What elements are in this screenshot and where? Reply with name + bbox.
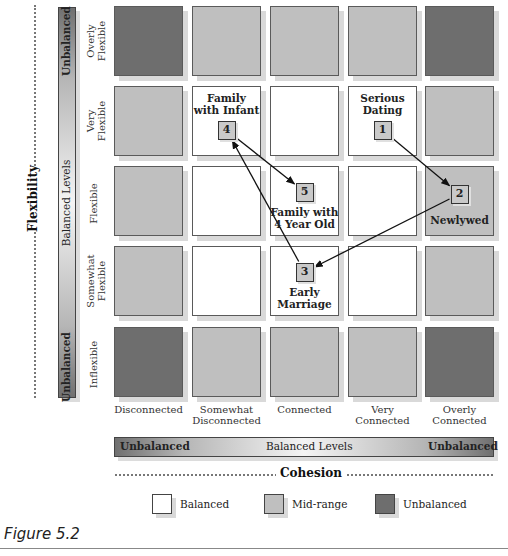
grid-cell-balanced (348, 246, 417, 316)
grid-cell-mid-range (348, 327, 417, 397)
grid-cell-mid-range (114, 166, 183, 236)
stage-marker: 1 (374, 121, 392, 140)
stage-label: Familywith Infant (192, 92, 261, 116)
grid-cell-mid-range (348, 6, 417, 76)
stage-marker: 5 (296, 183, 314, 202)
grid-cell-mid-range (114, 246, 183, 316)
grid-cell-mid-range (114, 86, 183, 156)
flexibility-level-label: Inflexible (83, 330, 110, 400)
grid-cell-unbalanced (425, 327, 494, 397)
legend-label-unbalanced: Unbalanced (403, 498, 467, 510)
figure-rule (0, 548, 508, 549)
grid-cell-mid-range (192, 6, 261, 76)
grid-cell-mid-range (270, 327, 339, 397)
legend-label-balanced: Balanced (180, 498, 229, 510)
flexibility-level-label: SomewhatFlexible (85, 246, 107, 316)
stage-label: Family with4 Year Old (270, 206, 339, 230)
grid-cell-mid-range (425, 86, 494, 156)
flexibility-level-label: OverlyFlexible (85, 6, 107, 76)
legend-label-mid-range: Mid-range (292, 498, 347, 510)
grid-cell-mid-range (192, 327, 261, 397)
flexibility-axis-title: Flexibility (26, 168, 42, 232)
grid-cell-unbalanced (114, 6, 183, 76)
stage-marker: 3 (296, 263, 314, 282)
cohesion-axis-title: Cohesion (276, 466, 346, 480)
stage-label: Newlywed (425, 214, 494, 226)
legend-swatch-unbalanced (375, 494, 395, 514)
cohesion-bar-left-label: Unbalanced (120, 440, 190, 452)
grid-cell-unbalanced (114, 327, 183, 397)
cohesion-level-label: Connected (265, 404, 345, 415)
flexibility-level-label: Flexible (83, 169, 110, 239)
cohesion-level-label: SomewhatDisconnected (187, 404, 267, 426)
flexibility-bar-bottom-label: Unbalanced (60, 327, 74, 407)
stage-label: SeriousDating (348, 92, 417, 116)
legend-swatch-mid-range (264, 494, 284, 514)
grid-cell-balanced (270, 86, 339, 156)
grid-cell-balanced (192, 166, 261, 236)
flexibility-bar-middle-label: Balanced Levels (60, 153, 74, 253)
flexibility-bar-top-label: Unbalanced (60, 1, 74, 81)
stage-marker: 4 (218, 121, 236, 140)
cohesion-bar-right-label: Unbalanced (428, 440, 498, 452)
legend-swatch-balanced (152, 494, 172, 514)
stage-marker: 2 (451, 185, 469, 204)
grid-cell-mid-range (270, 6, 339, 76)
cohesion-level-label: VeryConnected (343, 404, 423, 426)
grid-cell-balanced (348, 166, 417, 236)
stage-label: EarlyMarriage (270, 286, 339, 310)
grid-cell-mid-range (425, 246, 494, 316)
figure-title: Figure 5.2 (4, 525, 80, 543)
cohesion-level-label: OverlyConnected (420, 404, 500, 426)
cohesion-level-label: Disconnected (109, 404, 189, 415)
cohesion-bar-middle-label: Balanced Levels (266, 440, 353, 452)
grid-cell-balanced (192, 246, 261, 316)
flexibility-level-label: VeryFlexible (85, 86, 107, 156)
grid-cell-unbalanced (425, 6, 494, 76)
